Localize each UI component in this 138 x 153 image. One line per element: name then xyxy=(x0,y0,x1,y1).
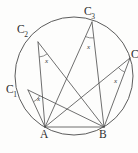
circle-outline xyxy=(15,17,133,135)
vertex-label-b: B xyxy=(99,129,107,141)
angle-arc-c3 xyxy=(85,37,93,38)
angle-label-c1: x xyxy=(37,96,40,103)
angle-label-c2: x xyxy=(45,58,48,65)
vertex-label-a: A xyxy=(40,129,48,141)
chord-c3-a xyxy=(45,22,92,127)
vertex-label-c1: C1 xyxy=(6,84,17,98)
vertex-label-c1-subscript: 1 xyxy=(13,90,17,99)
vertex-label-c2: C2 xyxy=(17,24,28,38)
inscribed-angle-figure: A B C1 C2 C3 C4 x x x x xyxy=(0,0,138,153)
vertex-label-c3: C3 xyxy=(84,6,95,20)
chord-c2-b xyxy=(38,42,104,127)
vertex-label-b-text: B xyxy=(99,128,107,140)
vertex-label-c2-subscript: 2 xyxy=(24,30,28,39)
angle-label-c3: x xyxy=(87,44,90,51)
vertex-label-a-text: A xyxy=(40,128,48,140)
angle-label-c4: x xyxy=(114,78,117,85)
vertex-label-c4: C4 xyxy=(131,49,138,63)
vertex-label-c4-text: C xyxy=(131,48,138,60)
vertex-label-c3-subscript: 3 xyxy=(91,12,95,21)
angle-arc-c4 xyxy=(118,67,124,72)
